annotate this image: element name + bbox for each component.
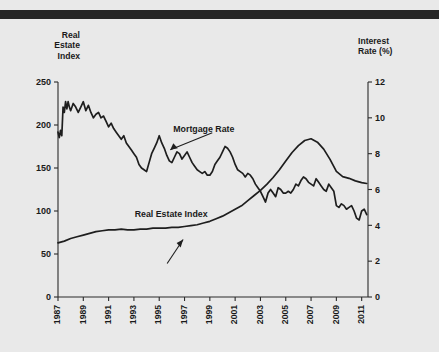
left-axis-group: 050100150200250	[36, 77, 58, 302]
x-tick-label: 1989	[78, 305, 88, 324]
x-tick-label: 2009	[331, 305, 341, 324]
series-line-mortgage-rate	[58, 102, 367, 220]
annotation-group: Mortgage RateReal Estate Index	[135, 124, 235, 264]
x-tick-label: 2011	[356, 305, 366, 324]
left-tick-label: 100	[36, 206, 51, 216]
right-tick-label: 4	[375, 221, 380, 231]
right-tick-label: 12	[375, 77, 385, 87]
x-tick-label: 1997	[179, 305, 189, 324]
left-tick-label: 200	[36, 120, 51, 130]
right-tick-label: 6	[375, 185, 380, 195]
x-tick-label: 1987	[52, 305, 62, 324]
series-line-real-estate-index	[58, 139, 367, 243]
x-tick-label: 2005	[280, 305, 290, 324]
annotation-label-mortgage-rate: Mortgage Rate	[173, 124, 234, 134]
dual-axis-line-chart: 050100150200250 024681012 19871989199119…	[0, 0, 439, 352]
false	[177, 240, 184, 248]
x-tick-label: 1999	[204, 305, 214, 324]
right-tick-label: 2	[375, 256, 380, 266]
false	[170, 143, 178, 150]
x-tick-label: 2003	[255, 305, 265, 324]
right-tick-label: 0	[375, 292, 380, 302]
x-tick-label: 1993	[128, 305, 138, 324]
x-tick-label: 2001	[229, 305, 239, 324]
x-tick-label: 2007	[305, 305, 315, 324]
right-tick-label: 8	[375, 149, 380, 159]
right-axis-group: 024681012	[368, 77, 385, 302]
left-tick-label: 150	[36, 163, 51, 173]
x-axis-group: 1987198919911993199519971999200120032005…	[52, 297, 368, 324]
x-tick-label: 1995	[153, 305, 163, 324]
left-tick-label: 50	[41, 249, 51, 259]
x-tick-label: 1991	[103, 305, 113, 324]
annotation-label-real-estate-index: Real Estate Index	[135, 209, 208, 219]
left-tick-label: 250	[36, 77, 51, 87]
left-tick-label: 0	[46, 292, 51, 302]
right-tick-label: 10	[375, 113, 385, 123]
